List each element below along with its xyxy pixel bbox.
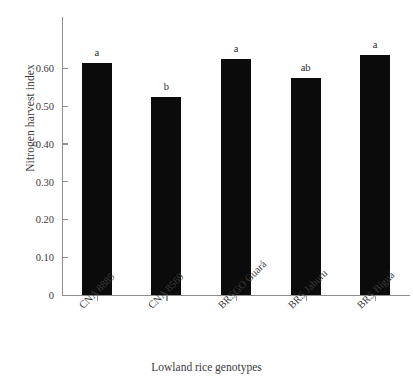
bar — [221, 59, 251, 295]
bar-significance-letter: ab — [301, 62, 311, 73]
bar-significance-letter: b — [164, 81, 169, 92]
y-tick-mark — [62, 257, 68, 258]
bar-significance-letter: a — [94, 47, 99, 58]
y-axis-line — [62, 17, 63, 296]
y-tick-mark — [62, 219, 68, 220]
bar-significance-letter: a — [373, 39, 378, 50]
y-tick-mark — [62, 106, 68, 107]
y-tick-label: 0.40 — [8, 138, 54, 149]
y-tick-label: 0 — [8, 290, 54, 301]
y-tick-label: 0.50 — [8, 101, 54, 112]
y-tick-label: 0.10 — [8, 252, 54, 263]
bar — [360, 55, 390, 295]
y-tick-mark — [62, 143, 68, 144]
y-tick-label: 0.30 — [8, 176, 54, 187]
y-tick-label: 0.60 — [8, 63, 54, 74]
y-tick-mark — [62, 68, 68, 69]
bar-significance-letter: a — [234, 43, 239, 54]
bar — [151, 97, 181, 295]
bar — [82, 63, 112, 295]
y-tick-mark — [62, 181, 68, 182]
bar — [291, 78, 321, 295]
y-tick-label: 0.20 — [8, 214, 54, 225]
bar-chart-figure: Nitrogen harvest index 00.100.200.300.40… — [0, 0, 413, 387]
x-axis-title: Lowland rice genotypes — [0, 361, 413, 373]
